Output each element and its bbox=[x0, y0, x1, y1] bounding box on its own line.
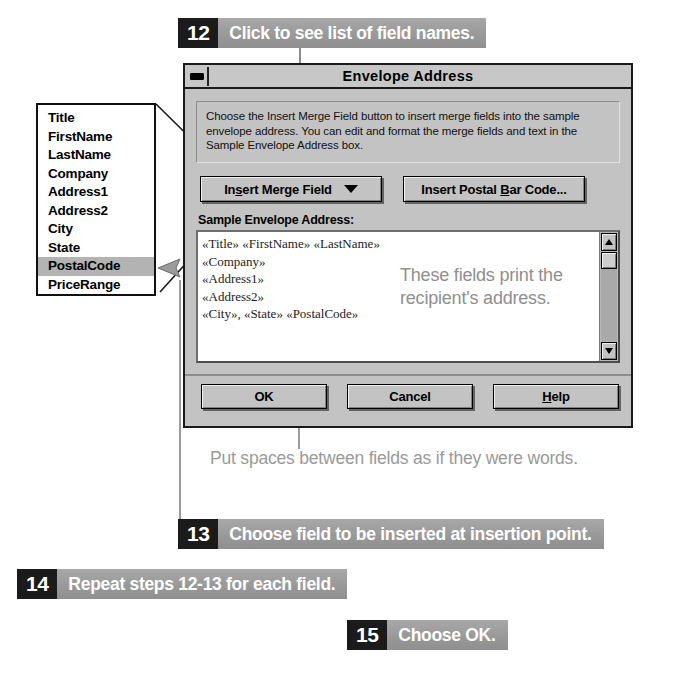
dialog-title-bar: Envelope Address bbox=[185, 65, 631, 89]
dialog-title: Envelope Address bbox=[185, 68, 631, 84]
ok-button[interactable]: OK bbox=[201, 384, 327, 409]
list-item[interactable]: City bbox=[38, 220, 154, 239]
insert-postal-bar-code-label: Insert Postal Bar Code... bbox=[421, 182, 566, 197]
step-text-15: Choose OK. bbox=[387, 620, 507, 650]
list-item[interactable]: FirstName bbox=[38, 128, 154, 147]
annotation-put-spaces: Put spaces between fields as if they wer… bbox=[210, 447, 650, 470]
field-name-list-items: Title FirstName LastName Company Address… bbox=[38, 105, 154, 294]
description-text: Choose the Insert Merge Field button to … bbox=[206, 109, 610, 153]
dialog-body: Choose the Insert Merge Field button to … bbox=[185, 89, 631, 428]
step-number-14: 14 bbox=[17, 569, 57, 599]
annotation-fields-print: These fields print the recipient's addre… bbox=[400, 264, 600, 310]
description-group-box: Choose the Insert Merge Field button to … bbox=[196, 101, 620, 163]
selection-pointer-arrow-icon bbox=[158, 258, 184, 278]
help-button-label: Help bbox=[542, 389, 569, 404]
illustration-page: 12 Click to see list of field names. Tit… bbox=[0, 0, 685, 681]
scrollbar-track[interactable] bbox=[601, 269, 617, 341]
help-button[interactable]: Help bbox=[493, 384, 619, 409]
step-text-12: Click to see list of field names. bbox=[218, 18, 486, 48]
scroll-up-button[interactable] bbox=[601, 233, 617, 251]
cancel-button[interactable]: Cancel bbox=[347, 384, 473, 409]
list-item[interactable]: Company bbox=[38, 165, 154, 184]
insert-merge-field-label: Insert Merge Field bbox=[224, 182, 332, 197]
list-item[interactable]: State bbox=[38, 239, 154, 258]
step-banner-14: 14 Repeat steps 12-13 for each field. bbox=[17, 569, 347, 599]
insert-merge-field-button[interactable]: Insert Merge Field bbox=[200, 176, 382, 202]
list-item[interactable]: LastName bbox=[38, 146, 154, 165]
field-name-list[interactable]: Title FirstName LastName Company Address… bbox=[36, 103, 156, 296]
ok-button-label: OK bbox=[254, 389, 273, 404]
step-text-13: Choose field to be inserted at insertion… bbox=[218, 519, 603, 549]
scroll-down-arrow-icon bbox=[605, 348, 613, 354]
scroll-down-button[interactable] bbox=[601, 342, 617, 360]
cancel-button-label: Cancel bbox=[389, 389, 430, 404]
list-item[interactable]: Address2 bbox=[38, 202, 154, 221]
sample-envelope-address-label: Sample Envelope Address: bbox=[198, 213, 354, 227]
sample-line: «Title» «FirstName» «LastName» bbox=[202, 235, 599, 253]
vertical-scrollbar[interactable] bbox=[599, 232, 618, 361]
list-item[interactable]: PriceRange bbox=[38, 276, 154, 295]
chevron-down-icon bbox=[344, 185, 358, 193]
scrollbar-thumb[interactable] bbox=[601, 252, 617, 269]
envelope-address-dialog: Envelope Address Choose the Insert Merge… bbox=[183, 63, 633, 428]
dialog-separator bbox=[185, 374, 631, 376]
step-text-14: Repeat steps 12-13 for each field. bbox=[57, 569, 347, 599]
step-number-15: 15 bbox=[347, 620, 387, 650]
step-number-13: 13 bbox=[178, 519, 218, 549]
list-item-selected[interactable]: PostalCode bbox=[38, 257, 154, 276]
step-number-12: 12 bbox=[178, 18, 218, 48]
step-banner-13: 13 Choose field to be inserted at insert… bbox=[178, 519, 604, 549]
scroll-up-arrow-icon bbox=[605, 239, 613, 245]
list-item[interactable]: Address1 bbox=[38, 183, 154, 202]
insert-postal-bar-code-button[interactable]: Insert Postal Bar Code... bbox=[403, 176, 585, 202]
step-banner-15: 15 Choose OK. bbox=[347, 620, 508, 650]
step-banner-12: 12 Click to see list of field names. bbox=[178, 18, 486, 48]
list-item[interactable]: Title bbox=[38, 109, 154, 128]
